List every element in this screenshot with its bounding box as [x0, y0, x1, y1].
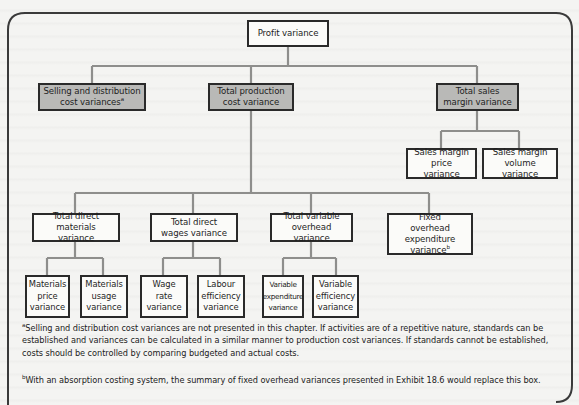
total-production-cost-label: Total production cost variance [216, 86, 286, 108]
labour-efficiency-box: Labour efficiency variance [197, 275, 245, 318]
sales-margin-volume-box: Sales margin volume variance [482, 148, 558, 179]
total-direct-wages-box: Total direct wages variance [150, 213, 238, 242]
materials-price-box: Materials price variance [25, 275, 70, 318]
materials-price-label: Materials price variance [28, 279, 67, 314]
total-variable-overhead-label: Total variable overhead variance [273, 211, 350, 244]
total-variable-overhead-box: Total variable overhead variance [270, 213, 353, 242]
total-production-cost-box: Total production cost variance [208, 83, 294, 111]
fixed-overhead-expenditure-label: Fixed overhead expenditure varianceb [399, 212, 461, 256]
sales-margin-price-label: Sales margin price variance [413, 147, 470, 180]
variable-expenditure-label: Variable expenditure variance [263, 279, 304, 314]
footnote-b: bWith an absorption costing system, the … [22, 374, 562, 386]
total-direct-materials-label: Total direct materials variance [37, 211, 115, 244]
total-sales-margin-box: Total sales margin variance [436, 83, 519, 111]
sales-margin-price-box: Sales margin price variance [406, 148, 477, 179]
total-direct-wages-label: Total direct wages variance [160, 217, 228, 239]
wage-rate-label: Wage rate variance [146, 279, 181, 314]
labour-efficiency-label: Labour efficiency variance [200, 279, 242, 314]
footnote-mark-b: b [446, 244, 449, 250]
profit-variance-label: Profit variance [258, 28, 319, 39]
variable-efficiency-box: Variable efficiency variance [312, 275, 359, 318]
variable-expenditure-box: Variable expenditure variance [262, 275, 304, 318]
wage-rate-box: Wage rate variance [140, 275, 188, 318]
materials-usage-box: Materials usage variance [80, 275, 128, 318]
footnote-a-text: Selling and distribution cost variances … [22, 323, 548, 358]
selling-distribution-box: Selling and distribution cost variancesa [38, 83, 146, 111]
selling-distribution-label: Selling and distribution cost variancesa [42, 86, 142, 108]
fixed-overhead-expenditure-box: Fixed overhead expenditure varianceb [387, 213, 473, 255]
footnote-mark-a: a [121, 96, 124, 102]
total-direct-materials-box: Total direct materials variance [32, 213, 120, 242]
footnote-b-text: With an absorption costing system, the s… [25, 375, 540, 385]
sales-margin-volume-label: Sales margin volume variance [487, 147, 553, 180]
materials-usage-label: Materials usage variance [83, 279, 125, 314]
footnote-a: aSelling and distribution cost variances… [22, 322, 562, 359]
total-sales-margin-label: Total sales margin variance [442, 86, 513, 108]
profit-variance-box: Profit variance [247, 20, 329, 47]
variable-efficiency-label: Variable efficiency variance [315, 279, 356, 314]
